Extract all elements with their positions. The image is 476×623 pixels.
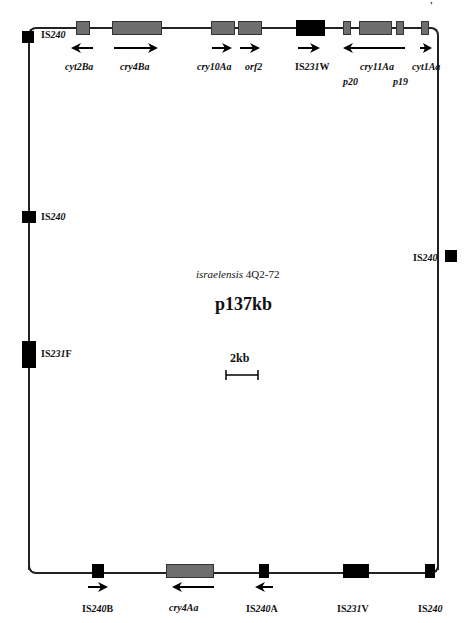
is231f-label: IS231F: [41, 348, 72, 359]
cry4Aa-label: cry4Aa: [169, 602, 198, 613]
is240-top-left-box: [22, 31, 34, 43]
strain-label: israelensis 4Q2-72: [196, 268, 279, 280]
is231w-arrow-right-icon: [298, 43, 320, 53]
backbone-left: [28, 36, 30, 570]
cyt1Aa-gene: [421, 21, 429, 35]
p20-gene: [343, 21, 351, 35]
cyt2Ba-gene: [76, 21, 90, 35]
is240-left-box: [22, 211, 36, 223]
cry4Ba-arrow-right-icon: [114, 43, 158, 53]
scale-bar: [225, 370, 259, 380]
is240a-arrow-left-icon: [255, 582, 273, 592]
is240a-label: IS240A: [246, 603, 278, 614]
is231w-label: IS231W: [295, 61, 329, 72]
is240-left-label: IS240: [41, 211, 65, 222]
corner-mark: ': [430, 0, 433, 11]
is231v-box: [343, 564, 369, 578]
cry10Aa-arrow-right-icon: [212, 43, 232, 53]
is240a-box: [259, 564, 269, 578]
is240-bottom-right-label: IS240: [418, 603, 442, 614]
is240-top-left-label: IS240: [41, 29, 65, 40]
is240-bottom-right-box: [425, 564, 435, 578]
is240b-label: IS240B: [82, 603, 113, 614]
cry11Aa-label: cry11Aa: [360, 61, 394, 72]
is240-right-box: [445, 250, 457, 262]
is240b-box: [92, 564, 104, 578]
backbone-right: [437, 36, 439, 570]
scale-label: 2kb: [230, 351, 249, 366]
p20-label: p20: [343, 76, 358, 87]
is231v-label: IS231V: [337, 603, 369, 614]
cyt1Aa-arrow-right-icon: [420, 43, 432, 53]
plasmid-title: p137kb: [215, 294, 272, 315]
cyt1Aa-label: cyt1Aa: [412, 61, 440, 72]
is240b-arrow-right-icon: [88, 582, 108, 592]
cry4Aa-gene: [166, 564, 214, 578]
cyt2Ba-arrow-left-icon: [71, 43, 93, 53]
cyt2Ba-label: cyt2Ba: [65, 61, 93, 72]
cry4Ba-label: cry4Ba: [120, 61, 149, 72]
is231w-box: [296, 20, 325, 36]
p19-label: p19: [393, 76, 408, 87]
cry10Aa-gene: [211, 21, 235, 35]
is231f-box: [22, 341, 36, 368]
p19-gene: [396, 21, 404, 35]
cry11Aa-gene: [359, 21, 392, 35]
cry4Ba-gene: [112, 21, 162, 35]
orf2-arrow-right-icon: [240, 43, 260, 53]
cry10Aa-label: cry10Aa: [197, 61, 231, 72]
orf2-label: orf2: [245, 61, 262, 72]
cry11Aa-arrow-left-icon: [343, 43, 405, 53]
is240-right-label: IS240: [413, 252, 437, 263]
cry4Aa-arrow-left-icon: [172, 582, 214, 592]
orf2-gene: [238, 21, 262, 35]
